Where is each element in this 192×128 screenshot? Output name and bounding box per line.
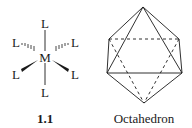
solid-wedge-left xyxy=(21,60,38,72)
octahedron-caption: Octahedron xyxy=(114,112,175,125)
ligand-front-right: L xyxy=(71,68,79,81)
ligand-bottom: L xyxy=(41,86,49,99)
hashed-wedge-right xyxy=(56,43,68,51)
hashed-wedge-left xyxy=(22,43,34,51)
solid-wedge-right xyxy=(52,60,69,72)
metal-center: M xyxy=(39,51,51,64)
diagram-canvas xyxy=(0,0,192,128)
ligand-top: L xyxy=(41,17,49,30)
compound-label: 1.1 xyxy=(37,112,53,125)
ligand-front-left: L xyxy=(12,68,20,81)
octahedron-drawing xyxy=(107,7,182,103)
ligand-back-left: L xyxy=(12,36,20,49)
ligand-back-right: L xyxy=(71,36,79,49)
